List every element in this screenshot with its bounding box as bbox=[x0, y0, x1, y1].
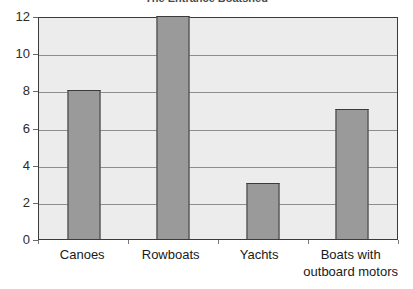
x-axis-ticks bbox=[38, 240, 398, 245]
x-axis-tick-mark bbox=[398, 240, 399, 244]
x-axis-label-line: Yachts bbox=[240, 247, 279, 262]
x-axis-label-line: Rowboats bbox=[142, 247, 200, 262]
x-axis-label-line: outboard motors bbox=[303, 263, 398, 280]
bar[interactable] bbox=[246, 183, 279, 239]
y-axis-tick-label: 6 bbox=[23, 121, 30, 137]
x-axis-label: Boats withoutboard motors bbox=[303, 246, 398, 280]
bar-slot bbox=[39, 18, 129, 239]
y-axis: 121086420 bbox=[0, 17, 38, 240]
y-axis-tick-label: 4 bbox=[23, 158, 30, 174]
bar[interactable] bbox=[336, 109, 369, 239]
bars-container bbox=[39, 18, 397, 239]
bar-slot bbox=[218, 18, 308, 239]
bar[interactable] bbox=[67, 90, 100, 239]
x-axis-tick-mark bbox=[128, 240, 129, 244]
x-axis-tick-mark bbox=[218, 240, 219, 244]
x-axis-label: Rowboats bbox=[126, 246, 214, 280]
chart-title: The Entrance Boatshed bbox=[0, 0, 413, 5]
y-axis-tick-label: 10 bbox=[16, 46, 30, 62]
x-axis-label-line: Boats with bbox=[321, 247, 381, 262]
y-axis-tick-label: 8 bbox=[23, 83, 30, 99]
x-axis-tick-mark bbox=[308, 240, 309, 244]
y-axis-tick-label: 2 bbox=[23, 195, 30, 211]
bar-slot bbox=[129, 18, 219, 239]
x-axis-label-line: Canoes bbox=[60, 247, 105, 262]
bar-slot bbox=[308, 18, 398, 239]
x-axis-tick-mark bbox=[38, 240, 39, 244]
y-axis-tick-label: 12 bbox=[16, 9, 30, 25]
y-axis-tick-label: 0 bbox=[23, 232, 30, 248]
bar[interactable] bbox=[157, 16, 190, 239]
x-axis-label: Yachts bbox=[215, 246, 303, 280]
plot-area bbox=[38, 17, 398, 240]
x-axis-label: Canoes bbox=[38, 246, 126, 280]
x-axis-labels: CanoesRowboatsYachtsBoats withoutboard m… bbox=[38, 246, 398, 280]
